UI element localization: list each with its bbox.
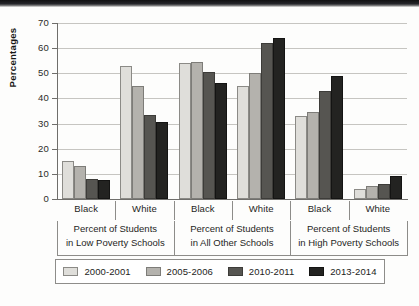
category-label: White <box>349 203 407 214</box>
y-axis-title: Percentages <box>7 0 18 118</box>
bar <box>120 66 132 199</box>
bar <box>98 180 110 199</box>
supergroup-label-line: in Low Poverty Schools <box>57 236 174 250</box>
y-tick-label: 50 <box>25 67 49 78</box>
bar <box>273 38 285 199</box>
bar-group <box>115 23 173 199</box>
bar <box>62 161 74 199</box>
bar <box>132 86 144 199</box>
bar <box>237 86 249 199</box>
legend-swatch <box>146 267 161 276</box>
legend-swatch <box>228 267 243 276</box>
y-tick-label: 10 <box>25 168 49 179</box>
bar <box>390 176 402 199</box>
chart-legend: 2000-20012005-20062010-20112013-2014 <box>55 259 385 284</box>
legend-item: 2013-2014 <box>309 266 376 277</box>
category-label: Black <box>174 203 232 214</box>
bar <box>366 186 378 199</box>
y-tick-label: 60 <box>25 42 49 53</box>
bar <box>74 166 86 199</box>
bar <box>249 73 261 199</box>
bar <box>319 91 331 199</box>
category-label: Black <box>290 203 348 214</box>
axis-divider <box>290 201 291 220</box>
supergroup-divider <box>290 221 291 255</box>
axis-divider <box>174 201 175 220</box>
axis-divider <box>115 201 116 220</box>
bar-group <box>290 23 348 199</box>
y-tick-label: 0 <box>25 193 49 204</box>
bar <box>295 116 307 199</box>
category-label: White <box>232 203 290 214</box>
bar <box>215 83 227 199</box>
axis-divider <box>349 201 350 220</box>
bar <box>307 112 319 199</box>
supergroup-divider <box>174 221 175 255</box>
bar <box>203 72 215 199</box>
legend-label: 2000-2001 <box>84 266 130 277</box>
bar <box>354 189 366 199</box>
supergroup-axis-labels: Percent of Studentsin Low Poverty School… <box>57 222 408 256</box>
bar-group <box>174 23 232 199</box>
supergroup-label-line: in High Poverty Schools <box>290 236 407 250</box>
supergroup-label: Percent of Studentsin High Poverty Schoo… <box>290 222 407 250</box>
y-tick-label: 40 <box>25 92 49 103</box>
legend-swatch <box>63 267 78 276</box>
legend-label: 2010-2011 <box>249 266 295 277</box>
category-label: Black <box>57 203 115 214</box>
bar <box>144 115 156 199</box>
y-tick-label: 30 <box>25 118 49 129</box>
bar <box>156 122 168 199</box>
supergroup-label-line: Percent of Students <box>174 222 291 236</box>
chart-page: Percentages 706050403020100 BlackWhiteBl… <box>0 0 419 306</box>
bar <box>331 76 343 199</box>
bar-group <box>57 23 115 199</box>
scan-edge-top <box>0 0 419 7</box>
y-tick-label: 70 <box>25 17 49 28</box>
y-axis-line <box>57 23 58 200</box>
bar <box>378 184 390 199</box>
legend-item: 2005-2006 <box>146 266 213 277</box>
supergroup-label: Percent of Studentsin All Other Schools <box>174 222 291 250</box>
supergroup-label-line: in All Other Schools <box>174 236 291 250</box>
category-label: White <box>115 203 173 214</box>
bar <box>179 63 191 199</box>
supergroup-label: Percent of Studentsin Low Poverty School… <box>57 222 174 250</box>
legend-label: 2013-2014 <box>330 266 376 277</box>
supergroup-label-line: Percent of Students <box>290 222 407 236</box>
plot-area <box>57 23 407 199</box>
category-axis-labels: BlackWhiteBlackWhiteBlackWhite <box>57 200 408 222</box>
legend-item: 2010-2011 <box>228 266 295 277</box>
bar <box>191 62 203 199</box>
supergroup-label-line: Percent of Students <box>57 222 174 236</box>
bar <box>86 179 98 199</box>
bar <box>261 43 273 199</box>
bar-group <box>349 23 407 199</box>
axis-divider <box>232 201 233 220</box>
legend-swatch <box>309 267 324 276</box>
legend-label: 2005-2006 <box>167 266 213 277</box>
bar-group <box>232 23 290 199</box>
y-tick-label: 20 <box>25 143 49 154</box>
legend-item: 2000-2001 <box>63 266 130 277</box>
